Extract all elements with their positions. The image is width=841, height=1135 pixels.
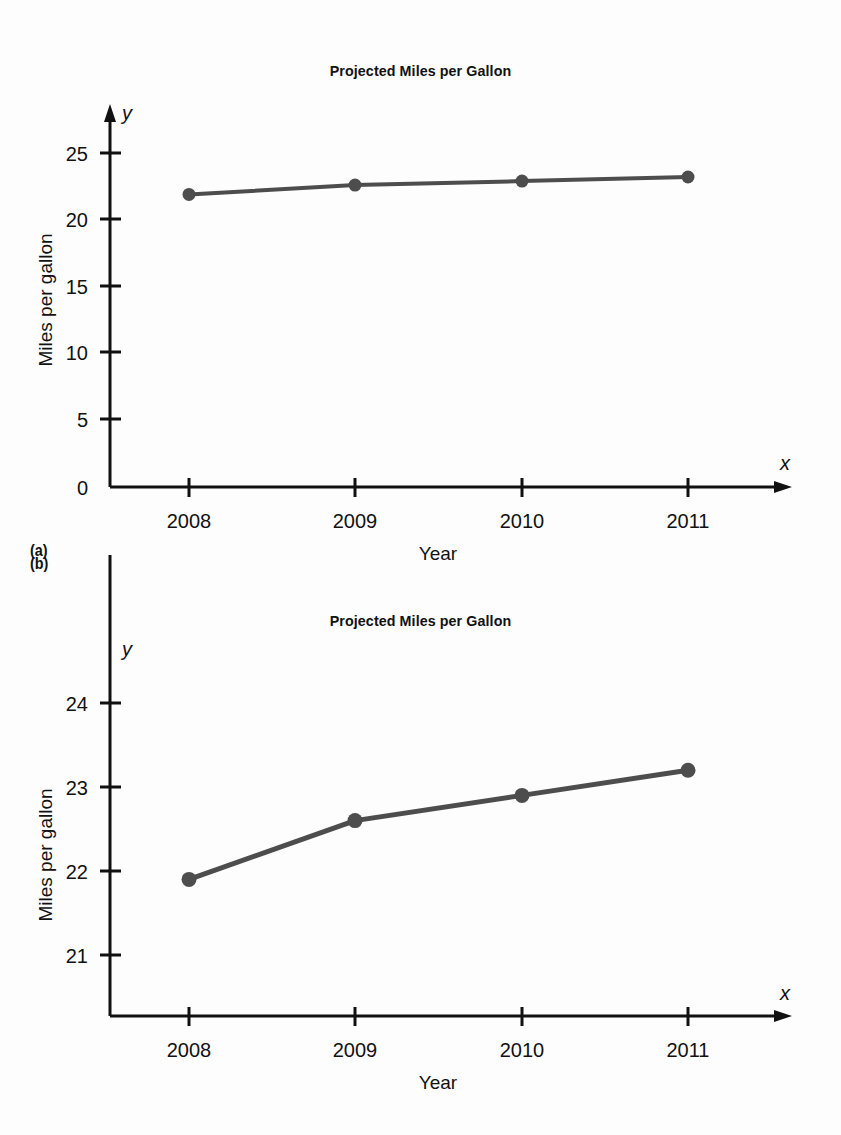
y-tick-label-23-b: 23 [66,777,88,799]
y-tick-label-15-a: 15 [66,276,88,298]
figure-b: Projected Miles per Gallon y x [0,555,841,1135]
y-axis-variable-a: y [120,102,133,124]
x-tick-label-2010-b: 2010 [500,1039,545,1061]
y-tick-label-0-a: 0 [77,477,88,499]
data-series-b [182,763,696,887]
x-tick-label-2010-a: 2010 [500,510,545,532]
y-axis-label-a: Miles per gallon [35,233,56,366]
y-axis-variable-b: y [120,638,133,660]
x-tick-label-2011-a: 2011 [666,510,709,532]
x-tick-label-2008-b: 2008 [167,1039,212,1061]
series-markers-a [183,171,695,201]
y-tick-label-25-a: 25 [66,143,88,165]
x-axis-b [110,1010,792,1022]
x-tick-label-2008-a: 2008 [167,510,212,532]
y-tick-label-10-a: 10 [66,342,88,364]
panel-label-b: (b) [30,555,48,573]
y-tick-label-22-b: 22 [66,861,88,883]
x-axis-a [110,481,792,493]
x-axis-variable-a: x [779,452,791,474]
data-point-2009 [349,179,362,192]
figure-a: Projected Miles per Gallon y x [0,0,841,590]
series-line-b [189,770,688,879]
data-point-2009 [348,813,363,828]
chart-b-plot: y x 24 23 22 21 2008 2009 [0,555,841,1135]
data-point-2011 [681,763,696,778]
y-tick-label-24-b: 24 [66,693,88,715]
data-point-2008 [183,188,196,201]
data-series-a [183,171,695,201]
x-tick-label-2009-a: 2009 [333,510,378,532]
y-tick-label-21-b: 21 [66,945,88,967]
x-tick-label-2011-b: 2011 [666,1039,709,1061]
series-line-a [189,177,688,194]
page-canvas: Projected Miles per Gallon y x [0,0,841,1135]
data-point-2010 [515,788,530,803]
data-point-2008 [182,872,197,887]
x-axis-variable-b: x [779,982,791,1004]
x-axis-label-b: Year [419,1072,458,1093]
chart-a-plot: y x 25 20 15 10 5 0 [0,0,841,590]
y-axis-label-b: Miles per gallon [35,788,56,921]
y-tick-label-20-a: 20 [66,209,88,231]
x-tick-label-2009-b: 2009 [333,1039,378,1061]
y-axis-a [104,104,116,487]
y-tick-label-5-a: 5 [77,409,88,431]
data-point-2010 [516,175,529,188]
data-point-2011 [682,171,695,184]
